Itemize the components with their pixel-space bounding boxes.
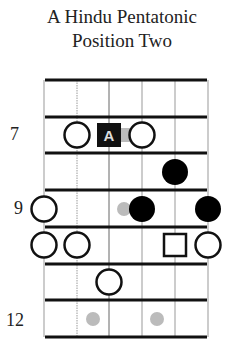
inlay-dot-fret-9	[117, 202, 131, 216]
note-filled-circle	[195, 196, 221, 222]
root-note-label: A	[104, 127, 115, 144]
note-hollow-circle	[32, 197, 57, 222]
inlay-dot-fret-12-a	[86, 312, 100, 326]
note-hollow-circle	[130, 123, 155, 148]
note-hollow-circle	[196, 233, 221, 258]
note-hollow-square	[164, 234, 186, 256]
root-note-square: A	[97, 123, 121, 147]
note-filled-circle	[162, 159, 188, 185]
note-hollow-circle	[65, 233, 90, 258]
note-hollow-circle	[32, 233, 57, 258]
inlay-dot-fret-12-b	[150, 312, 164, 326]
note-filled-circle	[129, 196, 155, 222]
note-hollow-circle	[97, 270, 122, 295]
fretboard-diagram: A	[0, 0, 244, 357]
note-hollow-circle	[65, 123, 90, 148]
